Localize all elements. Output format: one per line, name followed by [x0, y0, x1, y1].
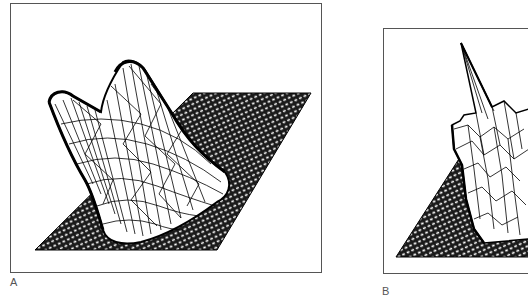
- wireframe-surface-b: [384, 29, 528, 274]
- panel-label-a: A: [10, 276, 17, 288]
- panel-label-b: B: [382, 285, 389, 297]
- panel-b-frame: [383, 28, 528, 274]
- wireframe-surface-a: [11, 4, 322, 273]
- panel-a-frame: [10, 3, 322, 273]
